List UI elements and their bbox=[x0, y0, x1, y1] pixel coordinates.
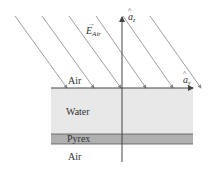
svg-text:→: → bbox=[87, 19, 95, 28]
air-top-label: Air bbox=[68, 75, 82, 86]
wave-incidence-diagram: EAir → az ^ ay ^ Air Water Pyrex Air bbox=[0, 0, 210, 170]
air-bottom-label: Air bbox=[68, 151, 82, 162]
water-label: Water bbox=[66, 106, 90, 117]
pyrex-label: Pyrex bbox=[67, 133, 90, 144]
incident-rays bbox=[15, 16, 201, 88]
